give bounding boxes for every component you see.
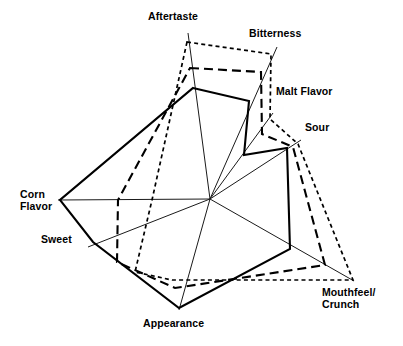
- axis-label-corn-line2: Flavor: [20, 200, 52, 212]
- axis-line-aftertaste: [188, 33, 210, 199]
- axis-label-sour-text: Sour: [305, 121, 329, 133]
- axis-label-sweet-text: Sweet: [41, 233, 72, 245]
- axis-label-sweet: Sweet: [41, 234, 72, 246]
- axis-label-mouthfeel-crunch: Mouthfeel/Crunch: [322, 287, 376, 310]
- axis-label-aftertaste-text: Aftertaste: [148, 10, 198, 22]
- axis-line-malt-flavor: [210, 113, 273, 199]
- axis-label-aftertaste: Aftertaste: [148, 11, 198, 23]
- series-polygon-solid: [60, 88, 290, 308]
- axis-line-corn-flavor: [58, 199, 210, 200]
- axis-label-corn-flavor: CornFlavor: [20, 189, 52, 212]
- axis-label-bitterness-text: Bitterness: [249, 27, 301, 39]
- axis-label-bitterness: Bitterness: [249, 28, 301, 40]
- axis-label-appearance-text: Appearance: [143, 317, 204, 329]
- axis-label-mouthfeel-line2: Crunch: [322, 298, 359, 310]
- series-polygon-long-dash: [117, 68, 325, 288]
- radar-chart: Aftertaste Bitterness Malt Flavor Sour M…: [0, 0, 403, 346]
- axis-label-sour: Sour: [305, 122, 329, 134]
- axis-label-corn-line1: Corn: [20, 188, 45, 200]
- axis-label-malt-flavor-text: Malt Flavor: [276, 85, 333, 97]
- axis-label-mouthfeel-line1: Mouthfeel/: [322, 286, 376, 298]
- axis-line-sweet: [88, 199, 210, 247]
- axis-line-mouthfeel-crunch: [210, 199, 354, 281]
- axis-label-malt-flavor: Malt Flavor: [276, 86, 333, 98]
- axis-label-appearance: Appearance: [143, 318, 204, 330]
